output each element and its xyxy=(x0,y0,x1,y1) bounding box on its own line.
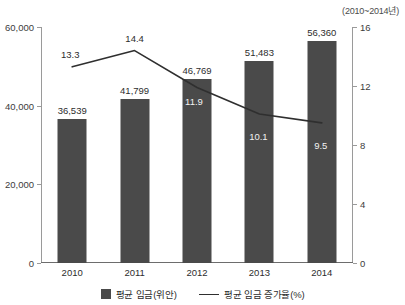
line-value-label: 14.4 xyxy=(125,32,144,43)
line-value-label: 9.5 xyxy=(314,139,327,150)
left-axis-tick-label: 20,000 xyxy=(5,179,34,190)
growth-rate-line xyxy=(72,51,322,123)
right-axis-tick-label: 0 xyxy=(360,258,365,269)
right-axis-tick-label: 4 xyxy=(360,199,365,210)
left-axis-tick-label: 60,000 xyxy=(5,22,34,33)
right-axis-tick-label: 8 xyxy=(360,140,365,151)
bar-swatch-icon xyxy=(101,289,111,299)
x-axis-tick-label: 2010 xyxy=(62,267,83,278)
left-axis-tick-label: 0 xyxy=(29,258,34,269)
x-axis-tick-label: 2012 xyxy=(186,267,207,278)
line-value-label: 10.1 xyxy=(249,131,268,142)
legend-label-growth-rate: 평균 임금 증가율(%) xyxy=(224,287,305,301)
line-swatch-icon xyxy=(199,294,219,295)
chart-legend: 평균 임금(위안) 평균 임금 증가율(%) xyxy=(0,287,405,301)
legend-item-average-wage: 평균 임금(위안) xyxy=(101,287,177,301)
period-annotation: (2010~2014년) xyxy=(342,4,399,17)
plot-area: 020,00040,00060,000 0481216 201020112012… xyxy=(41,27,353,263)
left-axis-tick-label: 40,000 xyxy=(5,100,34,111)
x-axis-tick-label: 2014 xyxy=(311,267,332,278)
right-axis-tick-label: 16 xyxy=(360,22,371,33)
right-axis-tick-mark xyxy=(353,86,357,87)
right-axis-tick-label: 12 xyxy=(360,81,371,92)
line-value-label: 11.9 xyxy=(185,96,203,107)
legend-item-growth-rate: 평균 임금 증가율(%) xyxy=(199,287,305,301)
wage-growth-chart: (2010~2014년) 020,00040,00060,000 0481216… xyxy=(0,0,405,305)
left-axis-tick-mark xyxy=(37,263,41,264)
right-axis-tick-mark xyxy=(353,27,357,28)
x-axis-tick-label: 2011 xyxy=(124,267,144,278)
legend-label-average-wage: 평균 임금(위안) xyxy=(116,287,177,301)
line-series xyxy=(41,27,353,263)
right-axis-tick-mark xyxy=(353,204,357,205)
right-axis-tick-mark xyxy=(353,263,357,264)
right-axis-tick-mark xyxy=(353,145,357,146)
line-value-label: 13.3 xyxy=(61,48,80,59)
x-axis-tick-label: 2013 xyxy=(249,267,270,278)
